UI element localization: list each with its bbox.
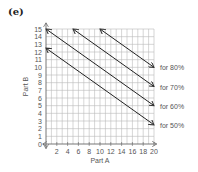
series-label: for 70% (160, 84, 184, 91)
x-tick-label: 12 (107, 148, 115, 155)
y-tick-label: 5 (38, 102, 42, 109)
y-tick-label: 14 (34, 33, 42, 40)
y-tick-label: 2 (38, 125, 42, 132)
y-tick-label: 11 (35, 56, 42, 63)
x-tick-label: 16 (129, 148, 137, 155)
line-chart: 24681012141618200123456789101112131415Pa… (0, 0, 198, 172)
x-tick-label: 14 (118, 148, 126, 155)
y-tick-label: 6 (38, 95, 42, 102)
x-tick-label: 6 (76, 148, 80, 155)
x-axis-title: Part A (90, 157, 109, 164)
y-tick-label: 8 (38, 79, 42, 86)
x-tick-label: 10 (96, 148, 104, 155)
x-tick-label: 20 (150, 148, 158, 155)
series-line (73, 29, 154, 87)
y-tick-label: 3 (38, 118, 42, 125)
series-label: for 50% (160, 122, 184, 129)
y-tick-label: 7 (38, 87, 42, 94)
x-tick-label: 2 (55, 148, 59, 155)
y-tick-label: 13 (34, 41, 42, 48)
y-tick-label: 4 (38, 110, 42, 117)
origin-label: 0 (38, 141, 42, 148)
x-tick-label: 18 (139, 148, 147, 155)
y-tick-label: 12 (34, 49, 42, 56)
y-tick-label: 15 (34, 26, 42, 33)
y-tick-label: 1 (38, 133, 42, 140)
y-tick-label: 9 (38, 72, 42, 79)
x-tick-label: 8 (87, 148, 91, 155)
y-axis-title: Part B (22, 76, 29, 96)
series-label: for 60% (160, 103, 184, 110)
y-tick-label: 10 (34, 64, 42, 71)
series-label: for 80% (160, 64, 184, 71)
x-tick-label: 4 (66, 148, 70, 155)
